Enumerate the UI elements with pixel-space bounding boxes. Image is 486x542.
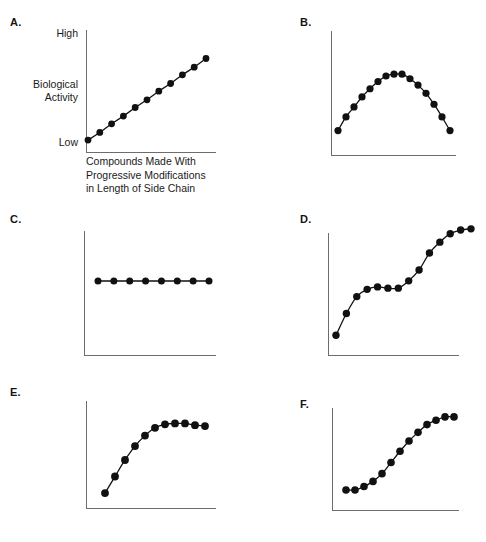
panel-a-series	[85, 55, 210, 143]
panel-b-series	[334, 71, 453, 135]
data-point	[334, 127, 341, 134]
data-point	[374, 78, 381, 85]
data-point	[142, 278, 149, 285]
data-point	[422, 90, 429, 97]
data-point	[396, 447, 404, 455]
data-point	[446, 127, 453, 134]
data-point	[155, 88, 162, 95]
data-point	[363, 286, 370, 293]
panel-d-axes	[329, 233, 460, 356]
data-point	[406, 75, 413, 82]
panel-e: E.	[0, 372, 243, 542]
panel-d-curve	[336, 229, 471, 335]
data-point	[151, 424, 159, 432]
data-point	[395, 284, 402, 291]
data-point	[467, 225, 474, 232]
data-point	[369, 478, 377, 486]
data-point	[131, 442, 139, 450]
data-point	[432, 417, 440, 425]
panel-c-axes	[85, 231, 217, 356]
data-point	[191, 421, 199, 429]
data-point	[398, 71, 405, 78]
data-point	[126, 278, 133, 285]
panel-e-plot	[0, 372, 243, 542]
panel-a-axes	[87, 30, 217, 153]
data-point	[121, 456, 129, 464]
data-point	[120, 113, 127, 120]
panel-c: C.	[0, 200, 243, 372]
data-point	[423, 421, 431, 429]
data-point	[438, 113, 445, 120]
data-point	[358, 93, 365, 100]
data-point	[342, 486, 350, 494]
data-point	[332, 332, 339, 339]
panel-d-series	[332, 225, 474, 339]
data-point	[382, 72, 389, 79]
data-point	[441, 413, 449, 421]
data-point	[203, 55, 210, 62]
data-point	[414, 82, 421, 89]
panel-f-series	[342, 413, 458, 494]
data-point	[96, 129, 103, 136]
panel-e-series	[101, 420, 209, 497]
panel-d: D.	[243, 200, 486, 372]
data-point	[161, 420, 169, 428]
data-point	[181, 420, 189, 428]
data-point	[384, 284, 391, 291]
data-point	[415, 266, 422, 273]
data-point	[206, 278, 213, 285]
data-point	[171, 420, 179, 428]
data-point	[144, 96, 151, 103]
panel-f-plot	[243, 372, 486, 542]
data-point	[167, 80, 174, 87]
data-point	[450, 413, 458, 421]
panel-b-plot	[243, 0, 486, 200]
panel-c-series	[95, 278, 213, 285]
data-point	[387, 459, 395, 467]
panel-b: B.	[243, 0, 486, 200]
x-axis-label-line1: Compounds Made With	[86, 155, 196, 167]
x-axis-label-line2: Progressive Modifications	[86, 169, 206, 181]
data-point	[426, 249, 433, 256]
data-point	[447, 230, 454, 237]
data-point	[414, 429, 422, 437]
data-point	[343, 310, 350, 317]
data-point	[174, 278, 181, 285]
data-point	[132, 104, 139, 111]
panel-d-plot	[243, 200, 486, 372]
data-point	[108, 120, 115, 127]
data-point	[405, 437, 413, 445]
panel-e-curve	[105, 423, 205, 493]
data-point	[342, 113, 349, 120]
data-point	[201, 422, 209, 430]
data-point	[95, 278, 102, 285]
data-point	[101, 489, 109, 497]
data-point	[390, 71, 397, 78]
data-point	[191, 64, 198, 71]
data-point	[190, 278, 197, 285]
figure-six-dose-response-panels: A. High Biological Activity Low Compound…	[0, 0, 486, 542]
data-point	[457, 226, 464, 233]
data-point	[350, 103, 357, 110]
x-axis-label-line3: in Length of Side Chain	[86, 182, 195, 194]
data-point	[85, 137, 92, 144]
data-point	[436, 238, 443, 245]
data-point	[366, 85, 373, 92]
data-point	[374, 283, 381, 290]
data-point	[179, 71, 186, 78]
data-point	[110, 278, 117, 285]
panel-f-axes	[333, 408, 460, 511]
data-point	[111, 473, 119, 481]
data-point	[360, 483, 368, 491]
data-point	[353, 293, 360, 300]
panel-b-axes	[332, 31, 457, 156]
data-point	[378, 470, 386, 478]
panel-f: F.	[243, 372, 486, 542]
data-point	[430, 101, 437, 108]
data-point	[405, 277, 412, 284]
data-point	[351, 486, 359, 494]
panel-a: A. High Biological Activity Low Compound…	[0, 0, 243, 200]
data-point	[141, 432, 149, 440]
data-point	[158, 278, 165, 285]
x-axis-label: Compounds Made WithProgressive Modificat…	[86, 155, 246, 196]
